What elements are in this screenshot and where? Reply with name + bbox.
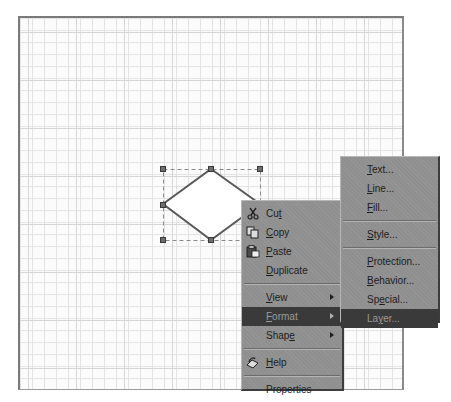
menu-separator bbox=[244, 283, 340, 285]
selection-handle-top[interactable] bbox=[208, 166, 214, 172]
menu-item-label: Style... bbox=[367, 229, 398, 240]
menu-item-label: Help bbox=[266, 357, 287, 368]
menu-item-label: Paste bbox=[266, 246, 292, 257]
format-submenu: Text... Line... Fill... Style... Protect… bbox=[340, 156, 440, 323]
menu-item-duplicate[interactable]: Duplicate bbox=[242, 261, 342, 280]
context-menu: Cut Copy Paste Duplicate View Format Sha… bbox=[241, 200, 344, 391]
menu-item-label: Duplicate bbox=[266, 265, 308, 276]
menu-item-format[interactable]: Format bbox=[242, 307, 342, 326]
paste-icon bbox=[246, 245, 260, 258]
help-icon bbox=[246, 356, 260, 369]
submenu-item-layer[interactable]: Layer... bbox=[341, 309, 438, 328]
submenu-arrow-icon bbox=[330, 294, 334, 300]
submenu-item-text[interactable]: Text... bbox=[341, 160, 438, 179]
menu-item-label: View bbox=[266, 292, 288, 303]
menu-item-help[interactable]: Help bbox=[242, 353, 342, 372]
menu-item-label: Text... bbox=[367, 164, 394, 175]
menu-separator bbox=[244, 348, 340, 350]
selection-handle-left[interactable] bbox=[160, 202, 166, 208]
menu-item-label: Format bbox=[266, 311, 298, 322]
menu-item-cut[interactable]: Cut bbox=[242, 204, 342, 223]
submenu-item-line[interactable]: Line... bbox=[341, 179, 438, 198]
menu-item-shape[interactable]: Shape bbox=[242, 326, 342, 345]
submenu-item-fill[interactable]: Fill... bbox=[341, 198, 438, 217]
menu-item-label: Line... bbox=[367, 183, 394, 194]
menu-item-label: Cut bbox=[266, 208, 282, 219]
menu-item-label: Fill... bbox=[367, 202, 388, 213]
submenu-item-behavior[interactable]: Behavior... bbox=[341, 271, 438, 290]
menu-item-view[interactable]: View bbox=[242, 288, 342, 307]
menu-item-label: Properties bbox=[266, 384, 312, 395]
menu-separator bbox=[244, 375, 340, 377]
selection-handle-bottom-left[interactable] bbox=[160, 237, 166, 243]
scissors-icon bbox=[246, 207, 260, 220]
menu-item-label: Special... bbox=[367, 294, 408, 305]
selection-handle-top-left[interactable] bbox=[160, 166, 166, 172]
selection-handle-bottom[interactable] bbox=[208, 237, 214, 243]
menu-item-label: Layer... bbox=[367, 313, 400, 324]
menu-separator bbox=[343, 220, 436, 222]
menu-item-label: Behavior... bbox=[367, 275, 414, 286]
submenu-item-special[interactable]: Special... bbox=[341, 290, 438, 309]
menu-item-properties[interactable]: Properties bbox=[242, 380, 342, 399]
menu-item-paste[interactable]: Paste bbox=[242, 242, 342, 261]
menu-item-label: Shape bbox=[266, 330, 295, 341]
menu-item-copy[interactable]: Copy bbox=[242, 223, 342, 242]
submenu-item-protection[interactable]: Protection... bbox=[341, 252, 438, 271]
menu-separator bbox=[343, 247, 436, 249]
selection-handle-top-right[interactable] bbox=[257, 166, 263, 172]
menu-item-label: Copy bbox=[266, 227, 289, 238]
copy-icon bbox=[246, 226, 260, 239]
submenu-arrow-icon bbox=[330, 313, 334, 319]
submenu-arrow-icon bbox=[330, 332, 334, 338]
menu-item-label: Protection... bbox=[367, 256, 420, 267]
submenu-item-style[interactable]: Style... bbox=[341, 225, 438, 244]
